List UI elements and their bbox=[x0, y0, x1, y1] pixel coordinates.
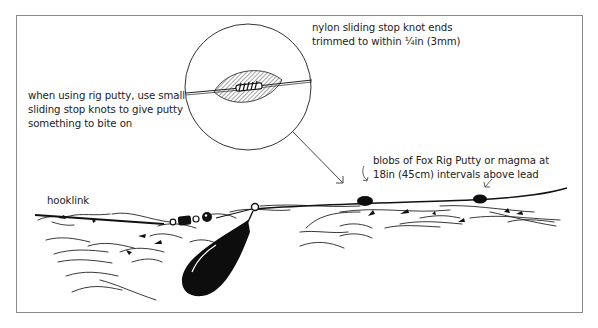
putty-blob-2 bbox=[473, 195, 487, 204]
putty-blob-1 bbox=[357, 196, 373, 206]
putty-blobs-note: blobs of Fox Rig Putty or magma at 18in … bbox=[373, 154, 549, 182]
rig-putty-note: when using rig putty, use small sliding … bbox=[28, 89, 185, 131]
knot-trim-note: nylon sliding stop knot ends trimmed to … bbox=[312, 21, 460, 49]
main-line bbox=[252, 188, 567, 209]
lead-weight bbox=[182, 211, 253, 296]
putty-note-line-2: sliding stop knots to give putty bbox=[28, 103, 185, 117]
lead-link-ring bbox=[252, 204, 259, 211]
hooklink-label: hooklink bbox=[47, 194, 89, 208]
lakebed bbox=[38, 205, 560, 300]
arrow-to-blob-1 bbox=[363, 166, 367, 180]
blobs-note-line-1: blobs of Fox Rig Putty or magma at bbox=[373, 154, 549, 168]
inset-pointer bbox=[292, 131, 343, 183]
lakebed-shading bbox=[58, 208, 523, 255]
blobs-note-line-2: 18in (45cm) intervals above lead bbox=[373, 168, 549, 182]
putty-note-line-1: when using rig putty, use small bbox=[28, 89, 185, 103]
knot-note-line-1: nylon sliding stop knot ends bbox=[312, 21, 460, 35]
putty-note-line-3: something to bite on bbox=[28, 117, 185, 131]
knot-note-line-2: trimmed to within ¼in (3mm) bbox=[312, 35, 460, 49]
